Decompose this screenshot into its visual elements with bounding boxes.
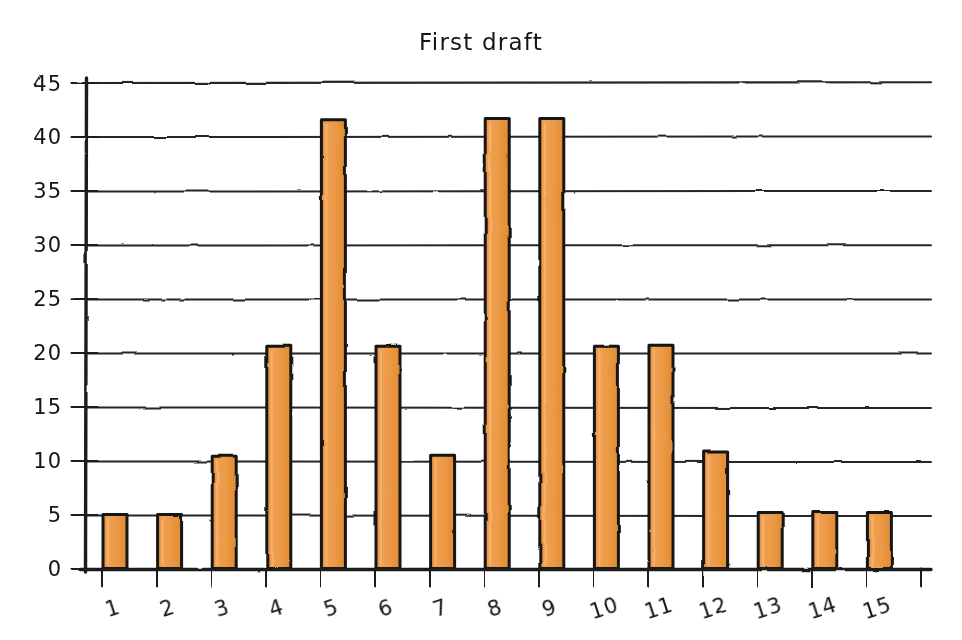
x-tick-mark (866, 569, 867, 586)
gridline-45 (86, 82, 931, 83)
x-tick-mark (320, 569, 321, 586)
y-tick-mark (72, 569, 97, 570)
y-tick-label: 40 (33, 125, 62, 149)
y-tick-mark (72, 407, 97, 408)
bar[interactable] (540, 119, 564, 569)
x-tick-mark (266, 569, 267, 586)
x-tick-mark (157, 569, 158, 586)
bar[interactable] (103, 515, 127, 569)
bar[interactable] (267, 346, 291, 568)
bar-chart-figure: First draft 051015202530354045 123456789… (0, 0, 962, 640)
bar-rect[interactable] (540, 119, 564, 569)
bar[interactable] (158, 515, 182, 569)
bar[interactable] (212, 456, 236, 568)
bar[interactable] (431, 455, 455, 568)
y-tick-mark (72, 353, 97, 354)
bar-rect[interactable] (485, 119, 509, 569)
bar-rect[interactable] (758, 512, 782, 568)
bar[interactable] (321, 120, 345, 569)
x-tick-mark (757, 569, 758, 586)
bar[interactable] (376, 346, 400, 568)
y-tick-mark (72, 83, 97, 84)
bar[interactable] (867, 512, 891, 568)
y-axis-line (86, 78, 87, 572)
bar-rect[interactable] (704, 452, 728, 569)
x-tick-mark (484, 569, 485, 586)
bar-rect[interactable] (376, 346, 400, 568)
bar[interactable] (485, 119, 509, 569)
bar[interactable] (649, 345, 673, 568)
y-tick-mark (72, 299, 97, 300)
bar-rect[interactable] (867, 512, 891, 568)
bar[interactable] (704, 452, 728, 569)
x-tick-mark-trailing (921, 569, 922, 586)
y-tick-label: 15 (33, 395, 62, 419)
y-tick-label: 45 (33, 72, 62, 96)
y-tick-mark (72, 137, 97, 138)
bar-rect[interactable] (431, 455, 455, 568)
bar[interactable] (813, 512, 837, 568)
x-tick-mark (375, 569, 376, 586)
y-tick-label: 0 (48, 557, 62, 581)
chart-title: First draft (419, 29, 543, 55)
bar-rect[interactable] (321, 120, 345, 569)
y-tick-label: 10 (33, 449, 62, 473)
y-tick-mark (72, 461, 97, 462)
y-tick-label: 35 (33, 179, 62, 203)
bar[interactable] (758, 512, 782, 568)
bar-rect[interactable] (594, 346, 618, 568)
x-tick-mark (648, 569, 649, 586)
x-tick-mark (812, 569, 813, 586)
y-tick-label: 25 (33, 287, 62, 311)
y-tick-label: 30 (33, 233, 62, 257)
x-tick-mark (539, 569, 540, 586)
x-tick-mark (430, 569, 431, 586)
bar-rect[interactable] (103, 515, 127, 569)
bar-rect[interactable] (649, 345, 673, 568)
y-tick-mark (72, 245, 97, 246)
x-tick-mark (102, 569, 103, 586)
x-tick-mark (593, 569, 594, 586)
bar[interactable] (594, 346, 618, 568)
bar-rect[interactable] (267, 346, 291, 568)
y-tick-mark (72, 191, 97, 192)
y-tick-label: 5 (48, 503, 62, 527)
x-tick-mark (211, 569, 212, 586)
y-tick-label: 20 (33, 341, 62, 365)
x-tick-mark (703, 569, 704, 586)
bar-rect[interactable] (158, 515, 182, 569)
bar-rect[interactable] (813, 512, 837, 568)
bar-rect[interactable] (212, 456, 236, 568)
chart-canvas: First draft 051015202530354045 123456789… (0, 0, 962, 640)
y-tick-mark (72, 515, 97, 516)
